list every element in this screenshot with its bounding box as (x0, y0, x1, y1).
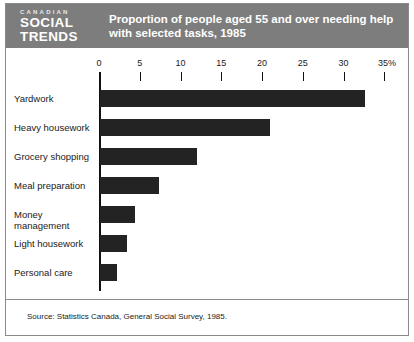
category-label: Money management (14, 209, 98, 231)
x-axis-tick-label: 0 (96, 58, 101, 68)
x-axis-tick-mark (303, 72, 304, 81)
x-axis-tick-label: 15 (216, 58, 226, 68)
chart-title-line-1: Proportion of people aged 55 and over ne… (109, 12, 400, 27)
x-axis-tick-label: 35% (378, 58, 396, 68)
bar (100, 119, 270, 136)
category-label: Meal preparation (14, 180, 98, 191)
x-axis-tick-mark (140, 72, 141, 81)
chart-header-band: CANADIAN SOCIAL TRENDS Proportion of peo… (6, 4, 408, 48)
chart-title-line-2: with selected tasks, 1985 (109, 26, 400, 41)
figure-container: CANADIAN SOCIAL TRENDS Proportion of peo… (0, 0, 414, 342)
x-axis-tick-label: 20 (257, 58, 267, 68)
category-label: Yardwork (14, 93, 98, 104)
source-note: Source: Statistics Canada, General Socia… (27, 312, 227, 321)
bar (100, 264, 117, 281)
x-axis-tick-label: 25 (298, 58, 308, 68)
x-axis-tick-mark (384, 72, 385, 81)
logo-line-trends: TRENDS (20, 30, 101, 44)
bar (100, 177, 159, 194)
x-axis-tick-mark (344, 72, 345, 81)
bar (100, 148, 197, 165)
x-axis-tick-label: 10 (175, 58, 185, 68)
category-label: Light housework (14, 238, 98, 249)
plot-area: 05101520253035% YardworkHeavy houseworkG… (6, 48, 408, 291)
category-label: Grocery shopping (14, 151, 98, 162)
x-axis-tick-label: 30 (338, 58, 348, 68)
x-axis-tick-label: 5 (137, 58, 142, 68)
bar (100, 235, 127, 252)
x-axis-tick-mark (262, 72, 263, 81)
chart-title: Proportion of people aged 55 and over ne… (101, 12, 408, 41)
category-label: Personal care (14, 267, 98, 278)
logo-line-social: SOCIAL (20, 16, 101, 30)
bar (100, 90, 365, 107)
x-axis-tick-mark (181, 72, 182, 81)
canadian-social-trends-logo: CANADIAN SOCIAL TRENDS (6, 8, 101, 44)
category-label: Heavy housework (14, 122, 98, 133)
bar (100, 206, 135, 223)
x-axis-tick-mark (221, 72, 222, 81)
footer-divider (6, 299, 408, 300)
